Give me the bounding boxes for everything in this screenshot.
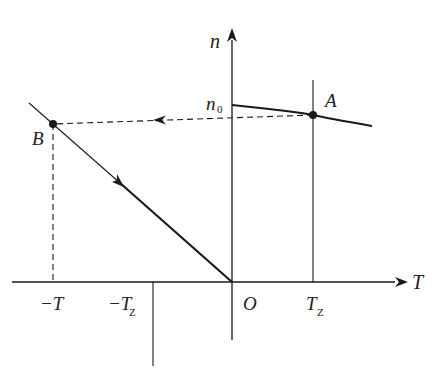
x-axis-label: T [412, 271, 425, 293]
neg-t-label: −T [40, 293, 65, 314]
y-axis [227, 28, 237, 340]
n0-label-main: n [206, 93, 216, 114]
point-b [49, 120, 57, 128]
y-axis-arrow-icon [227, 28, 237, 42]
x-axis [12, 277, 408, 287]
diagram-canvas: n T O n 0 A B −T −T Z T Z [0, 0, 432, 378]
point-a [309, 111, 317, 119]
diagonal-line-lower [120, 183, 232, 282]
origin-label: O [243, 293, 257, 314]
arrow-left-icon [153, 116, 166, 125]
n0-label-sub: 0 [217, 103, 223, 115]
x-axis-arrow-icon [395, 277, 408, 287]
dashed-line-a-to-b [53, 115, 313, 124]
y-axis-label: n [210, 30, 220, 52]
arrow-down-right-icon [112, 174, 124, 187]
point-b-label: B [32, 128, 44, 149]
neg-tz-label-sub: Z [129, 306, 136, 318]
point-a-label: A [323, 90, 337, 111]
tz-label-sub: Z [317, 306, 324, 318]
